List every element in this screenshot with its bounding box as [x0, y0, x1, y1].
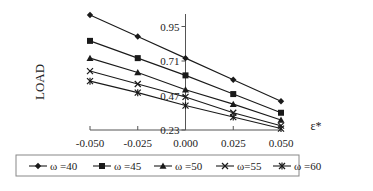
legend-label: ω =60	[294, 160, 322, 172]
diamond-marker-icon	[230, 76, 236, 82]
square-marker-icon	[278, 110, 284, 116]
x-tick-label: 0.025	[221, 137, 246, 149]
legend-label: ω =50	[175, 160, 203, 172]
legend-label: ω =40	[50, 160, 78, 172]
legend-label: ω =45	[114, 160, 142, 172]
y-axis-label: LOAD	[32, 64, 47, 100]
square-marker-icon	[99, 163, 105, 169]
diamond-marker-icon	[182, 55, 188, 61]
square-marker-icon	[135, 55, 141, 61]
square-marker-icon	[87, 38, 93, 44]
y-tick-label: 0.71	[160, 55, 179, 67]
load-line-chart: -0.050-0.0250.0000.0250.0500.230.470.710…	[0, 0, 373, 191]
square-marker-icon	[183, 72, 189, 78]
y-tick-label: 0.23	[160, 124, 180, 136]
x-axis-label: ε*	[310, 119, 321, 133]
x-tick-label: 0.000	[173, 137, 198, 149]
diamond-marker-icon	[87, 12, 93, 18]
y-tick-label: 0.95	[160, 21, 180, 33]
square-marker-icon	[230, 91, 236, 97]
x-tick-label: 0.050	[269, 137, 294, 149]
diamond-marker-icon	[135, 33, 141, 39]
triangle-marker-icon	[87, 55, 94, 61]
axes: -0.050-0.0250.0000.0250.0500.230.470.710…	[76, 14, 294, 149]
legend-label: ω=55	[237, 160, 262, 172]
diamond-marker-icon	[278, 98, 284, 104]
x-tick-label: -0.050	[76, 137, 105, 149]
legend: ω =40ω =45ω =50ω=55ω =60	[16, 155, 322, 176]
x-tick-label: -0.025	[124, 137, 153, 149]
